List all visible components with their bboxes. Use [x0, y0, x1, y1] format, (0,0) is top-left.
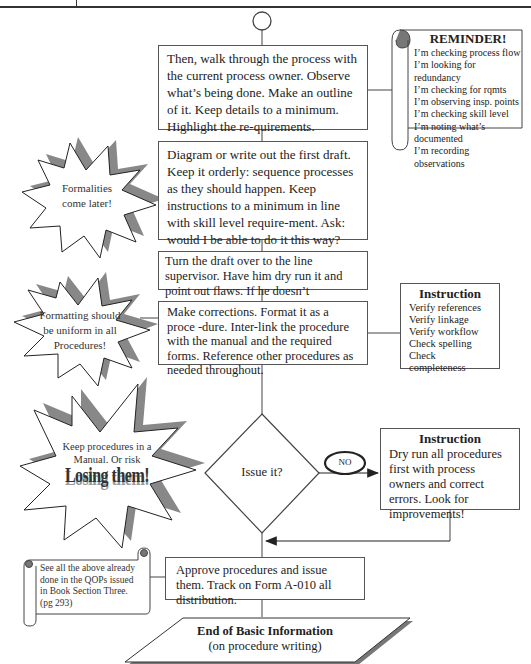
- instruction-dry-run-text: Dry run all procedures first with proces…: [389, 447, 511, 522]
- callout-formalities: Formalities come later!: [52, 181, 122, 211]
- step-line-supervisor: Turn the draft over to the line supervis…: [158, 251, 368, 290]
- step-corrections: Make corrections. Format it as a proce -…: [158, 301, 368, 365]
- callout-manual-emphasis: Losing them!: [65, 467, 149, 483]
- reminder-item: I’m checking for rqmts: [414, 84, 522, 96]
- check-item: Verify linkage: [409, 314, 491, 326]
- decision-no-label: NO: [328, 457, 362, 467]
- step-corrections-text: Make corrections. Format it as a proce -…: [167, 305, 359, 378]
- reminder-item: I’m checking skill level: [414, 108, 522, 120]
- reminder-item: I’m observing insp. points: [414, 96, 522, 108]
- check-item: Check completeness: [409, 350, 491, 374]
- reminder-item: I’m looking for redundancy: [414, 59, 522, 84]
- callout-manual-text: Keep procedures in a Manual. Or risk: [62, 440, 152, 466]
- instruction-checks-title: Instruction: [409, 286, 491, 302]
- step-approve-text: Approve procedures and issue them. Track…: [176, 563, 354, 608]
- reminder-item: I’m recording observations: [414, 145, 522, 170]
- callout-formatting: Formatting should be uniform in all Proc…: [38, 308, 122, 353]
- decision-label: Issue it?: [222, 465, 302, 480]
- step-approve: Approve procedures and issue them. Track…: [165, 557, 365, 600]
- scroll-note-text: See all the above already done in the QO…: [40, 563, 140, 609]
- step-first-draft-text: Diagram or write out the first draft. Ke…: [167, 146, 359, 248]
- step-first-draft: Diagram or write out the first draft. Ke…: [158, 141, 368, 240]
- instruction-dry-run-box: Instruction Dry run all procedures first…: [380, 428, 520, 510]
- instruction-checks-box: Instruction Verify references Verify lin…: [400, 283, 500, 369]
- end-title: End of Basic Information: [160, 624, 370, 639]
- instruction-dry-run-title: Instruction: [389, 431, 511, 447]
- callout-manual: Keep procedures in a Manual. Or risk Los…: [62, 440, 152, 484]
- step-walk-through-text: Then, walk through the process with the …: [167, 50, 359, 135]
- reminder-item: I’m noting what’s documented: [414, 121, 522, 146]
- start-terminal: [253, 12, 271, 30]
- check-item: Check spelling: [409, 338, 491, 350]
- reminder-title: REMINDER!: [414, 31, 522, 47]
- end-subtitle: (on procedure writing): [160, 639, 370, 654]
- check-item: Verify references: [409, 302, 491, 314]
- check-item: Verify workflow: [409, 326, 491, 338]
- end-terminal-text: End of Basic Information (on procedure w…: [160, 624, 370, 654]
- step-walk-through: Then, walk through the process with the …: [158, 45, 368, 130]
- reminder-item: I’m checking process flow: [414, 47, 522, 59]
- reminder-panel: REMINDER! I’m checking process flow I’m …: [414, 31, 522, 170]
